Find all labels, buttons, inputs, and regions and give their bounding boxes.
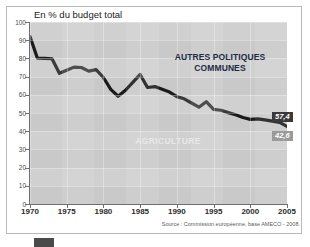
gridline-vertical	[140, 22, 141, 204]
x-axis-tick-mark	[287, 204, 288, 208]
annotation-autres-politiques-communes: AUTRES POLITIQUES COMMUNES	[160, 52, 280, 73]
bottom-tab-fragment	[34, 238, 54, 247]
x-axis-tick-label: 1985	[123, 207, 157, 217]
gridline-vertical	[250, 22, 251, 204]
y-axis-tick-mark	[25, 113, 29, 114]
gridline-vertical	[30, 22, 31, 204]
chart-figure: En % du budget total 0102030405060708090…	[0, 0, 310, 247]
y-axis-tick-mark	[25, 204, 29, 205]
x-axis-tick-mark	[250, 204, 251, 208]
y-axis-tick-label: 50	[4, 110, 26, 117]
gridline-horizontal	[30, 22, 287, 23]
y-axis-tick-label: 90	[4, 37, 26, 44]
y-axis-tick-label: 40	[4, 128, 26, 135]
value-badge-agriculture: 42,6	[272, 131, 293, 141]
x-axis-tick-mark	[30, 204, 31, 208]
x-axis-tick-label: 1980	[86, 207, 120, 217]
y-axis-tick-label: 10	[4, 182, 26, 189]
y-axis-tick-mark	[25, 22, 29, 23]
gridline-horizontal	[30, 186, 287, 187]
gridline-horizontal	[30, 95, 287, 96]
gridline-vertical	[67, 22, 68, 204]
x-axis-tick-mark	[177, 204, 178, 208]
y-axis-tick-mark	[25, 186, 29, 187]
x-axis-tick-label: 1995	[197, 207, 231, 217]
y-axis-tick-mark	[25, 77, 29, 78]
source-note: Source : Commission européenne, base AME…	[162, 221, 300, 227]
y-axis-tick-mark	[25, 149, 29, 150]
y-axis	[29, 22, 30, 205]
gridline-vertical	[103, 22, 104, 204]
x-axis-tick-label: 2000	[233, 207, 267, 217]
plot-area	[30, 22, 287, 204]
gridline-horizontal	[30, 168, 287, 169]
annotation-autres-line1: AUTRES POLITIQUES	[175, 52, 266, 62]
annotation-agriculture: AGRICULTURE	[108, 136, 228, 146]
y-axis-tick-label: 20	[4, 164, 26, 171]
x-axis-tick-label: 1990	[160, 207, 194, 217]
y-axis-tick-mark	[25, 95, 29, 96]
x-axis-tick-mark	[103, 204, 104, 208]
x-axis-tick-mark	[67, 204, 68, 208]
chart-title: En % du budget total	[34, 9, 122, 20]
x-axis-tick-mark	[214, 204, 215, 208]
y-axis-tick-mark	[25, 58, 29, 59]
y-axis-tick-label: 70	[4, 73, 26, 80]
y-axis-tick-label: 30	[4, 146, 26, 153]
annotation-autres-line2: COMMUNES	[194, 63, 245, 73]
y-axis-tick-label: 60	[4, 91, 26, 98]
y-axis-tick-mark	[25, 131, 29, 132]
value-badge-autres-politiques: 57,4	[272, 112, 293, 122]
gridline-vertical	[214, 22, 215, 204]
y-axis-tick-mark	[25, 168, 29, 169]
gridline-horizontal	[30, 131, 287, 132]
gridline-horizontal	[30, 40, 287, 41]
y-axis-tick-label: 100	[4, 19, 26, 26]
gridline-horizontal	[30, 113, 287, 114]
x-axis-tick-label: 1970	[13, 207, 47, 217]
gridline-vertical	[177, 22, 178, 204]
x-axis-tick-label: 1975	[50, 207, 84, 217]
x-axis-tick-label: 2005	[270, 207, 304, 217]
x-axis	[29, 204, 288, 205]
y-axis-tick-mark	[25, 40, 29, 41]
y-axis-tick-label: 80	[4, 55, 26, 62]
x-axis-tick-mark	[140, 204, 141, 208]
gridline-horizontal	[30, 77, 287, 78]
gridline-horizontal	[30, 149, 287, 150]
